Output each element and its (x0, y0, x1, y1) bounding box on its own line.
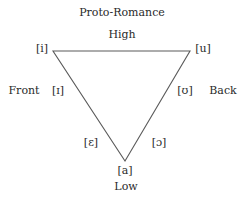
vowel-u: [u] (195, 43, 211, 55)
vowel-open-mid-back: [ɔ] (152, 137, 167, 149)
vowel-near-close-front: [ɪ] (52, 85, 64, 97)
triangle-outline (53, 51, 190, 161)
vowel-a: [a] (117, 165, 132, 177)
vowel-i: [i] (36, 43, 48, 55)
vowel-near-close-back: [ʊ] (177, 85, 192, 97)
front-label: Front (8, 85, 39, 97)
high-label: High (108, 29, 135, 41)
vowel-open-mid-front: [ɛ] (84, 137, 98, 149)
low-label: Low (114, 181, 137, 193)
diagram-title: Proto-Romance (79, 7, 165, 19)
back-label: Back (209, 85, 236, 97)
